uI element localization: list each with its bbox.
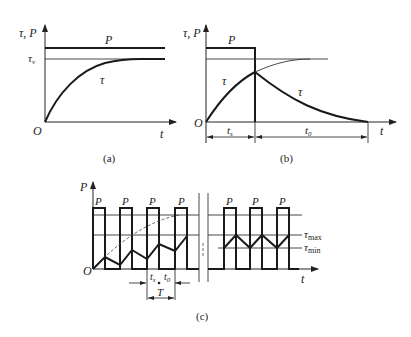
temperature-sawtooth-left: [93, 236, 187, 269]
pulse-label-7: P: [278, 195, 286, 207]
pulse-label-5: P: [225, 195, 233, 207]
power-label: P: [104, 33, 113, 47]
pulse-label-6: P: [251, 195, 259, 207]
cooling-curve-label: τ: [298, 85, 303, 99]
origin-label: O: [83, 264, 92, 278]
y-axis-label: τ, P: [183, 26, 201, 40]
panel-b: τ, P O t P τ τ ts t0 (b): [183, 25, 396, 165]
pulse-label-3: P: [148, 195, 156, 207]
on-time-label: ts: [150, 271, 156, 284]
x-axis-label: t: [380, 124, 384, 138]
x-axis-label: t: [301, 272, 305, 286]
period-label: T: [157, 286, 164, 298]
origin-label: O: [194, 116, 203, 130]
off-time-label: t0: [164, 271, 171, 284]
panel-a: τ, P O t P τv τ (a): [19, 25, 176, 165]
heating-curve-label: τ: [222, 74, 227, 88]
caption-b: (b): [280, 152, 293, 165]
continuation-curve: [255, 59, 310, 72]
pulse-label-4: P: [177, 195, 185, 207]
power-label: P: [227, 33, 236, 47]
caption-c: (c): [196, 310, 209, 323]
temperature-curve: [45, 59, 165, 122]
tau-min-label: τmin: [304, 241, 320, 255]
cooling-curve: [255, 72, 368, 122]
temperature-sawtooth-right: [224, 235, 289, 248]
curve-label: τ: [100, 73, 105, 87]
on-time-label: ts: [227, 124, 233, 138]
pulse-label-1: P: [94, 195, 102, 207]
heating-curve: [206, 72, 255, 122]
steady-temp-label: τv: [28, 52, 36, 66]
split-dot: [158, 282, 161, 285]
panel-c: P O P P P P t P P P τmax τmi: [79, 180, 322, 323]
thermal-duty-diagram: τ, P O t P τv τ (a) τ, P O t P τ τ: [0, 0, 411, 337]
x-axis-label: t: [160, 127, 164, 141]
tau-max-label: τmax: [304, 228, 322, 242]
envelope-curve: [93, 215, 180, 269]
origin-label: O: [33, 124, 42, 138]
off-time-label: t0: [305, 124, 312, 138]
y-axis-label: P: [79, 180, 88, 194]
pulse-label-2: P: [121, 195, 129, 207]
caption-a: (a): [103, 152, 116, 165]
y-axis-label: τ, P: [19, 26, 37, 40]
